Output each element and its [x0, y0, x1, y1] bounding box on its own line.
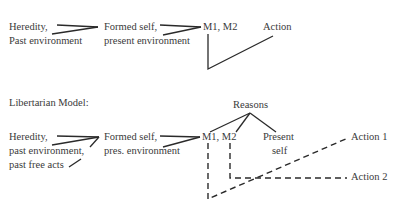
- arrow-line: [160, 25, 201, 27]
- arrow-line: [52, 27, 98, 34]
- present-self-label: Present: [263, 131, 294, 143]
- action-2-label: Action 2: [351, 171, 387, 183]
- arrow-line: [57, 136, 99, 137]
- arrow-line: [69, 159, 81, 167]
- determined-path: [208, 34, 273, 69]
- formed-self-label: Formed self,: [104, 131, 157, 143]
- arrow-line: [57, 25, 98, 27]
- arrow-line: [163, 27, 201, 35]
- past-free-acts-label: past free acts: [9, 159, 64, 171]
- heredity-label: Heredity,: [9, 21, 48, 33]
- pres-environment-label: pres. environment: [104, 145, 180, 157]
- reasons-branch: [210, 113, 250, 132]
- action-label: Action: [263, 21, 292, 33]
- libertarian-model-title: Libertarian Model:: [9, 97, 89, 109]
- arrow-line: [52, 137, 99, 145]
- arrow-line: [160, 136, 200, 137]
- past-environment-label: past environment,: [9, 145, 84, 157]
- heredity-label: Heredity,: [9, 131, 48, 143]
- formed-self-label: Formed self,: [104, 21, 157, 33]
- present-environment-label: present environment: [104, 35, 190, 47]
- path-to-action-2: [230, 143, 347, 178]
- reasons-label: Reasons: [233, 99, 268, 111]
- reasons-branch: [250, 113, 276, 132]
- past-environment-label: Past environment: [9, 35, 82, 47]
- action-1-label: Action 1: [351, 131, 387, 143]
- motives-label: M1, M2: [202, 131, 236, 143]
- motives-label: M1, M2: [203, 21, 237, 33]
- diagram-canvas: Heredity, Past environment Formed self, …: [0, 0, 402, 216]
- present-self-label-2: self: [272, 145, 287, 157]
